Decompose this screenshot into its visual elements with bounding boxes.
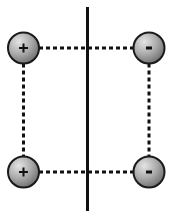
diagram-canvas — [0, 0, 174, 220]
negative-charge-top-right — [134, 33, 165, 64]
charge-diagram — [0, 0, 174, 220]
minus-icon — [146, 171, 152, 174]
positive-charge-top-left — [8, 33, 39, 64]
positive-charge-bottom-left — [8, 157, 39, 188]
minus-icon — [146, 47, 152, 50]
negative-charge-bottom-right — [134, 157, 165, 188]
